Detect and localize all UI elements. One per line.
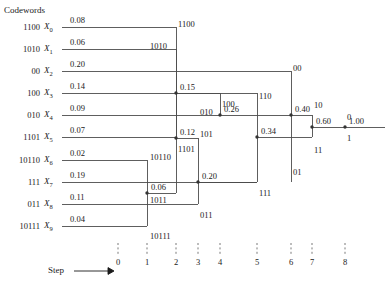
symbol-index-5: 5	[50, 136, 53, 143]
step-tick-6: 6	[281, 258, 301, 267]
branch-label-011-9: 011	[200, 211, 212, 220]
codeword-1: 1010	[0, 45, 40, 54]
merge-probability-n020: 0.20	[202, 172, 217, 181]
codeword-6: 10110	[0, 156, 40, 165]
merge-probability-n012: 0.12	[180, 128, 195, 137]
huffman-tree-figure: Codewords 110010100010001011011011011101…	[0, 0, 389, 295]
merge-node-n100	[343, 125, 346, 128]
symbol-index-0: 0	[50, 26, 53, 33]
branch-label-00-12: 00	[293, 64, 302, 73]
merge-probability-n006: 0.06	[151, 183, 166, 192]
branch-label-1100-0: 1100	[178, 20, 195, 29]
probability-0: 0.08	[70, 16, 85, 25]
step-tick-4: 4	[210, 258, 230, 267]
merge-node-n026	[218, 113, 221, 116]
probability-1: 0.06	[70, 38, 85, 47]
symbol-7: X7	[44, 177, 53, 188]
branch-label-1010-1: 1010	[150, 42, 167, 51]
merge-node-n006	[145, 191, 148, 194]
symbol-index-8: 8	[50, 203, 53, 210]
merge-node-n040	[289, 113, 292, 116]
probability-9: 0.04	[70, 215, 85, 224]
merge-node-n015	[174, 91, 177, 94]
branch-label-1101-5: 1101	[178, 145, 195, 154]
symbol-4: X4	[44, 110, 53, 121]
probability-7: 0.19	[70, 171, 85, 180]
merge-node-n060	[310, 125, 313, 128]
probability-5: 0.07	[70, 126, 85, 135]
codewords-header: Codewords	[4, 6, 45, 15]
codeword-0: 1100	[0, 23, 40, 32]
branch-label-100-8: 100	[222, 100, 235, 109]
symbol-8: X8	[44, 199, 53, 210]
branch-label-10110-3: 10110	[150, 153, 171, 162]
merge-probability-n040: 0.40	[295, 105, 310, 114]
symbol-index-3: 3	[50, 92, 53, 99]
probability-6: 0.02	[70, 149, 85, 158]
symbol-6: X6	[44, 155, 53, 166]
codeword-5: 1101	[0, 133, 40, 142]
branch-label-0-16: 0	[347, 113, 351, 122]
branch-label-11-15: 11	[314, 146, 322, 155]
symbol-0: X0	[44, 22, 53, 33]
probability-8: 0.11	[70, 193, 85, 202]
step-tick-5: 5	[247, 258, 267, 267]
symbol-index-6: 6	[50, 159, 53, 166]
codeword-2: 00	[0, 67, 40, 76]
codeword-3: 100	[0, 89, 40, 98]
branch-label-01-13: 01	[293, 168, 302, 177]
branch-label-1-17: 1	[347, 134, 351, 143]
merge-node-n020	[196, 180, 199, 183]
step-tick-0: 0	[108, 258, 128, 267]
symbol-index-2: 2	[50, 70, 53, 77]
branch-label-10-14: 10	[314, 101, 323, 110]
symbol-9: X9	[44, 221, 53, 232]
branch-label-101-7: 101	[200, 130, 213, 139]
codeword-8: 011	[0, 200, 40, 209]
merge-probability-n015: 0.15	[180, 83, 195, 92]
symbol-index-7: 7	[50, 181, 53, 188]
symbol-index-1: 1	[50, 48, 53, 55]
step-tick-2: 2	[166, 258, 186, 267]
branch-label-010-6: 010	[200, 108, 213, 117]
merge-probability-n034: 0.34	[261, 127, 276, 136]
symbol-index-9: 9	[50, 225, 53, 232]
branch-label-1011-2: 1011	[150, 196, 167, 205]
probability-4: 0.09	[70, 104, 85, 113]
merge-node-n034	[255, 135, 258, 138]
step-arrow-head	[108, 268, 114, 275]
symbol-3: X3	[44, 88, 53, 99]
branch-label-111-10: 111	[259, 189, 271, 198]
symbol-index-4: 4	[50, 114, 53, 121]
step-tick-3: 3	[188, 258, 208, 267]
step-tick-7: 7	[302, 258, 322, 267]
merge-node-n012	[174, 136, 177, 139]
codeword-9: 10111	[0, 222, 40, 231]
step-tick-1: 1	[137, 258, 157, 267]
branch-label-10111-4: 10111	[150, 232, 171, 241]
symbol-5: X5	[44, 132, 53, 143]
probability-2: 0.20	[70, 60, 85, 69]
symbol-1: X1	[44, 44, 53, 55]
codeword-7: 111	[0, 178, 40, 187]
codeword-4: 010	[0, 111, 40, 120]
probability-3: 0.14	[70, 82, 85, 91]
step-axis-label: Step	[48, 266, 64, 275]
merge-probability-n060: 0.60	[316, 117, 331, 126]
step-tick-8: 8	[335, 258, 355, 267]
symbol-2: X2	[44, 66, 53, 77]
branch-label-110-11: 110	[259, 92, 271, 101]
